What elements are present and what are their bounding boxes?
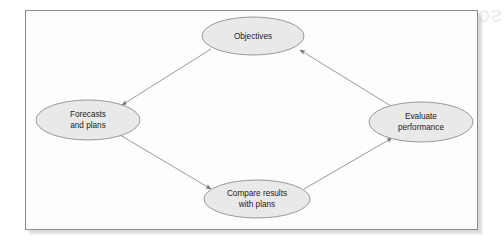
edge-forecasts-to-compare [120,135,211,189]
node-evaluate-performance-label-line2: performance [398,123,444,132]
node-objectives-label: Objectives [234,32,272,41]
diagram-nodes: Objectives Forecasts and plans Compare r… [36,17,473,218]
edge-evaluate-to-objectives [300,50,391,106]
node-evaluate-performance-label-line1: Evaluate [405,112,437,121]
node-forecasts-shape [36,100,140,140]
node-evaluate-performance-shape [369,102,473,142]
node-compare-results[interactable]: Compare results with plans [204,180,310,218]
edge-compare-to-evaluate [304,138,392,189]
node-objectives[interactable]: Objectives [202,17,304,55]
cycle-diagram: Objectives Forecasts and plans Compare r… [0,0,504,245]
node-compare-results-label-line2: with plans [238,200,275,209]
node-compare-results-label-line1: Compare results [227,189,287,198]
edge-objectives-to-forecasts [122,49,211,105]
figure-page: SOURCEBITE 1.1 Objectives Forecasts and … [0,0,504,245]
node-forecasts-label-line2: and plans [70,121,106,130]
node-forecasts[interactable]: Forecasts and plans [36,100,140,140]
node-evaluate-performance[interactable]: Evaluate performance [369,102,473,142]
node-compare-results-shape [204,180,310,218]
node-forecasts-label-line1: Forecasts [70,110,106,119]
diagram-edges [120,49,392,189]
